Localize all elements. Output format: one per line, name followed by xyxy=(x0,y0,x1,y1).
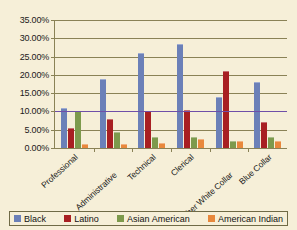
legend-item[interactable]: Black xyxy=(14,214,46,224)
bar[interactable] xyxy=(261,122,267,148)
bar[interactable] xyxy=(138,53,144,148)
bar[interactable] xyxy=(100,79,106,148)
x-axis-label-slot: Technical xyxy=(131,150,170,206)
bar[interactable] xyxy=(230,141,236,148)
bar-cap xyxy=(159,143,165,144)
bar[interactable] xyxy=(145,111,151,148)
legend-item[interactable]: Latino xyxy=(64,214,99,224)
bar-cap xyxy=(275,141,281,142)
bar[interactable] xyxy=(159,143,165,148)
y-axis-tick-label: 10.00% xyxy=(20,106,49,116)
x-axis-labels: ProfessionalAdministrativeTechnicalCleri… xyxy=(54,150,286,206)
bar-cap xyxy=(184,110,190,111)
bar-cap xyxy=(145,111,151,112)
y-axis-tick xyxy=(51,148,55,149)
bar-cap xyxy=(198,139,204,140)
bar-cap xyxy=(68,128,74,129)
bar-cap xyxy=(100,79,106,80)
bar-cap xyxy=(82,144,88,145)
bar-cap xyxy=(216,97,222,98)
bar-cap xyxy=(121,144,127,145)
bar[interactable] xyxy=(121,144,127,148)
bar-cap xyxy=(75,111,81,112)
bar-group xyxy=(210,20,249,148)
y-axis-tick-label: 30.00% xyxy=(20,33,49,43)
x-axis-label-slot: Administrative xyxy=(93,150,132,206)
bar-group xyxy=(94,20,133,148)
legend-label: Black xyxy=(24,214,46,224)
bar[interactable] xyxy=(237,141,243,148)
y-axis-labels: 35.00%30.00%25.00%20.00%15.00%10.00%5.00… xyxy=(0,0,52,160)
bar-groups xyxy=(55,20,287,148)
bar-cap xyxy=(191,137,197,138)
bar-cap xyxy=(237,141,243,142)
bar-cap xyxy=(261,122,267,123)
x-axis-label-slot: Blue Collar xyxy=(247,150,286,206)
legend-item[interactable]: American Indian xyxy=(208,214,283,224)
x-axis-tick-label: Clerical xyxy=(169,152,196,178)
bar-group xyxy=(171,20,210,148)
plot-area xyxy=(54,20,287,149)
bar-cap xyxy=(223,71,229,72)
bar[interactable] xyxy=(114,132,120,148)
bar[interactable] xyxy=(223,71,229,148)
bar[interactable] xyxy=(61,108,67,148)
legend-label: Latino xyxy=(74,214,99,224)
bar-cap xyxy=(254,82,260,83)
y-axis-tick-label: 20.00% xyxy=(20,70,49,80)
bar-cap xyxy=(152,137,158,138)
y-axis-tick-label: 0.00% xyxy=(24,143,49,153)
y-axis-tick-label: 25.00% xyxy=(20,52,49,62)
bar-group xyxy=(132,20,171,148)
bar[interactable] xyxy=(184,110,190,148)
chart-legend: BlackLatinoAsian AmericanAmerican Indian xyxy=(9,211,288,226)
bar-group xyxy=(248,20,287,148)
bar[interactable] xyxy=(82,144,88,148)
bar[interactable] xyxy=(152,137,158,148)
bar-cap xyxy=(268,137,274,138)
bar[interactable] xyxy=(75,111,81,148)
y-axis-tick-label: 35.00% xyxy=(20,15,49,25)
bar[interactable] xyxy=(68,128,74,148)
bar-cap xyxy=(61,108,67,109)
bar-cap xyxy=(114,132,120,133)
bar-cap xyxy=(230,141,236,142)
legend-swatch-icon xyxy=(64,215,71,222)
bar[interactable] xyxy=(191,137,197,148)
bar[interactable] xyxy=(198,139,204,148)
legend-swatch-icon xyxy=(117,215,124,222)
y-axis-tick-label: 5.00% xyxy=(24,125,49,135)
legend-swatch-icon xyxy=(208,215,215,222)
bar-cap xyxy=(177,44,183,45)
plot-wrapper: 35.00%30.00%25.00%20.00%15.00%10.00%5.00… xyxy=(0,0,297,160)
y-axis-tick-label: 15.00% xyxy=(20,88,49,98)
bar-cap xyxy=(138,53,144,54)
legend-swatch-icon xyxy=(14,215,21,222)
legend-label: American Indian xyxy=(218,214,283,224)
bar[interactable] xyxy=(275,141,281,148)
legend-label: Asian American xyxy=(127,214,190,224)
bar[interactable] xyxy=(254,82,260,148)
bar[interactable] xyxy=(268,137,274,148)
bar[interactable] xyxy=(107,119,113,148)
bar[interactable] xyxy=(177,44,183,148)
bar-group xyxy=(55,20,94,148)
legend-item[interactable]: Asian American xyxy=(117,214,190,224)
bar-chart: 35.00%30.00%25.00%20.00%15.00%10.00%5.00… xyxy=(0,0,297,230)
bar-cap xyxy=(107,119,113,120)
bar[interactable] xyxy=(216,97,222,148)
